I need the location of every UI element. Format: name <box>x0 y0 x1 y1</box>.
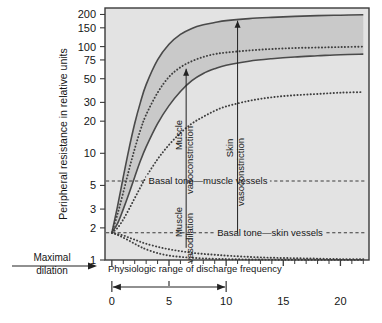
x-tick-label: 10 <box>220 295 232 307</box>
y-tick-label: 20 <box>84 115 96 127</box>
label-basal-tone-muscle: Basal tone—muscle vessels <box>149 175 268 186</box>
label-skin-vc-line1: Skin <box>224 139 235 157</box>
x-axis-title: Physiologic range of discharge frequency <box>108 263 282 274</box>
y-tick-label: 75 <box>84 54 96 66</box>
y-tick-label: 3 <box>90 203 96 215</box>
y-axis-title: Peripheral resistance in relative units <box>57 48 69 220</box>
x-tick-label: 20 <box>334 295 346 307</box>
x-tick-label: 15 <box>277 295 289 307</box>
label-skin-vc-line2: vasoconstriction <box>235 138 246 206</box>
y-tick-label: 5 <box>90 179 96 191</box>
chart-svg: Basal tone—muscle vessels Basal tone—ski… <box>0 0 382 323</box>
x-tick-label: 5 <box>166 295 172 307</box>
y-tick-label: 100 <box>78 41 96 53</box>
y-tick-label: 2 <box>90 222 96 234</box>
x-tick-label: 0 <box>109 295 115 307</box>
label-maximal-line1: Maximal <box>33 252 70 263</box>
y-tick-label: 10 <box>84 147 96 159</box>
label-muscle-vc-line1: Muscle <box>173 120 184 150</box>
label-muscle-vd-line2: vasodilation <box>184 213 195 263</box>
y-tick-label: 150 <box>78 22 96 34</box>
y-tick-label: 200 <box>78 8 96 20</box>
label-muscle-vd-line1: Muscle <box>173 207 184 237</box>
label-muscle-vc-line2: vasoconstriction <box>184 126 195 194</box>
y-tick-label: 30 <box>84 96 96 108</box>
label-maximal-line2: dilation <box>36 265 68 276</box>
y-tick-label: 50 <box>84 73 96 85</box>
figure-container: Basal tone—muscle vessels Basal tone—ski… <box>0 0 382 323</box>
label-basal-tone-skin: Basal tone—skin vessels <box>217 227 323 238</box>
